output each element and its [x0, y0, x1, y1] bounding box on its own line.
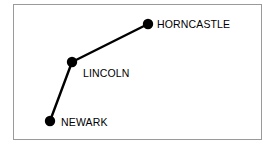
node-label-lincoln: LINCOLN — [83, 68, 130, 79]
node-dot-horncastle[interactable] — [143, 19, 153, 29]
node-label-newark: NEWARK — [61, 117, 108, 128]
node-dot-newark[interactable] — [45, 116, 55, 126]
node-dot-lincoln[interactable] — [67, 57, 77, 67]
node-label-horncastle: HORNCASTLE — [157, 19, 230, 30]
route-segment-lincoln-horncastle — [72, 24, 148, 62]
route-map-canvas — [0, 0, 277, 150]
diagram-root: HORNCASTLE LINCOLN NEWARK — [0, 0, 277, 150]
route-segment-newark-lincoln — [50, 62, 72, 121]
